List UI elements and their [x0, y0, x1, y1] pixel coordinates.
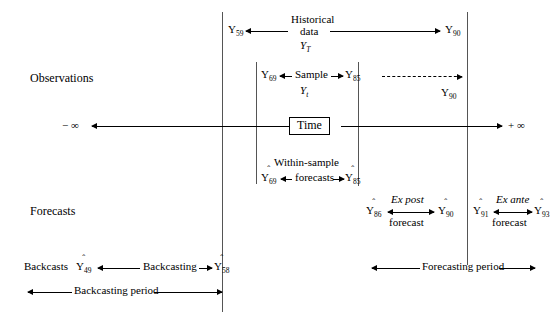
sample-label: Sample: [295, 69, 328, 80]
within-sample-arrow-right: [333, 179, 344, 180]
backcasts-prefix: Backcasts: [24, 261, 68, 272]
hat-accent-icon: ˆ: [345, 165, 360, 174]
backcasting-arrow-left: [98, 268, 140, 269]
within-sample-label-line1: Within-sample: [274, 157, 339, 168]
sample-left-value: Y69: [261, 69, 276, 80]
time-axis-left: [92, 126, 290, 127]
ex-post-subtitle: forecast: [389, 217, 424, 228]
historical-left-value: Y59: [228, 24, 243, 35]
backcasting-period-arrow-left: [28, 292, 72, 293]
backcasting-period-label: Backcasting period: [74, 285, 159, 296]
forecasting-period-arrow-left: [372, 268, 420, 269]
row-label-observations: Observations: [30, 72, 93, 84]
historical-label-line1: Historical: [291, 14, 334, 25]
within-sample-label-line2: forecasts: [295, 172, 334, 183]
hat-accent-icon: ˆ: [214, 254, 229, 263]
hat-accent-icon: ˆ: [534, 198, 549, 207]
backcasting-label: Backcasting: [143, 261, 197, 272]
ex-ante-arrow: [494, 212, 532, 213]
ex-ante-title: Ex ante: [496, 194, 529, 205]
vline-sample-start: [256, 62, 257, 184]
sample-dashed-arrow: [382, 76, 462, 77]
ex-ante-subtitle: forecast: [492, 217, 527, 228]
sample-arrow-left: [280, 76, 292, 77]
forecasting-period-arrow-right: [499, 268, 535, 269]
ex-post-title: Ex post: [391, 194, 424, 205]
ex-post-arrow: [388, 212, 434, 213]
sample-dashed-end-value: Y90: [441, 87, 456, 98]
hat-accent-icon: ˆ: [473, 198, 488, 207]
forecasting-period-label: Forecasting period: [422, 261, 504, 272]
backcasting-period-arrow-right: [154, 292, 222, 293]
historical-label-line3: YT: [300, 40, 310, 51]
sample-arrow-right: [331, 76, 343, 77]
historical-arrow-left: [246, 31, 288, 32]
backcasting-left-value: ˆY49: [76, 261, 91, 272]
within-sample-right-value: ˆY85: [345, 172, 360, 183]
hat-accent-icon: ˆ: [261, 165, 276, 174]
time-axis-box: Time: [289, 117, 330, 135]
backcasting-right-value: ˆY58: [214, 261, 229, 272]
hat-accent-icon: ˆ: [438, 198, 453, 207]
ex-ante-left-value: ˆY91: [473, 205, 488, 216]
within-sample-arrow-left: [281, 179, 292, 180]
ex-ante-right-value: ˆY93: [534, 205, 549, 216]
time-axis-right: [341, 126, 502, 127]
diagram-canvas: Observations Y59 Historical data YT Y90 …: [0, 0, 552, 324]
historical-right-value: Y90: [445, 24, 460, 35]
sample-sublabel: Yt: [300, 85, 308, 96]
ex-post-left-value: ˆY86: [366, 205, 381, 216]
vline-present: [467, 12, 468, 265]
backcasting-arrow-right: [199, 268, 212, 269]
hat-accent-icon: ˆ: [76, 254, 91, 263]
within-sample-left-value: ˆY69: [261, 172, 276, 183]
ex-post-right-value: ˆY90: [438, 205, 453, 216]
historical-label-line2: data: [300, 26, 318, 37]
axis-plus-infinity: + ∞: [508, 120, 525, 131]
historical-arrow-right: [330, 31, 440, 32]
axis-minus-infinity: − ∞: [62, 120, 79, 131]
row-label-forecasts: Forecasts: [30, 205, 75, 217]
sample-right-value: Y85: [345, 69, 360, 80]
hat-accent-icon: ˆ: [366, 198, 381, 207]
